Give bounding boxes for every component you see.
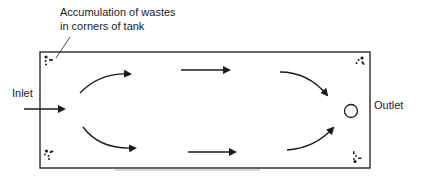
annotation-leader-line bbox=[56, 37, 70, 58]
lower-right-curved-flow-arrow-icon bbox=[287, 128, 333, 150]
waste-accumulation-annotation: Accumulation of wastes in corners of tan… bbox=[60, 5, 176, 33]
lower-curved-flow-arrow-icon bbox=[83, 127, 135, 148]
waste-deposit-top-right-icon bbox=[356, 56, 365, 65]
annotation-line-2: in corners of tank bbox=[60, 19, 176, 33]
inlet-label: Inlet bbox=[12, 86, 33, 100]
waste-deposit-bottom-left-icon bbox=[44, 149, 54, 160]
waste-deposit-bottom-right-icon bbox=[353, 151, 362, 163]
outlet-circle-icon bbox=[345, 105, 358, 118]
upper-curved-flow-arrow-icon bbox=[80, 74, 130, 93]
annotation-line-1: Accumulation of wastes bbox=[60, 5, 176, 19]
waste-deposit-top-left-icon bbox=[44, 55, 53, 65]
upper-right-curved-flow-arrow-icon bbox=[280, 72, 327, 95]
outlet-label: Outlet bbox=[374, 98, 403, 112]
